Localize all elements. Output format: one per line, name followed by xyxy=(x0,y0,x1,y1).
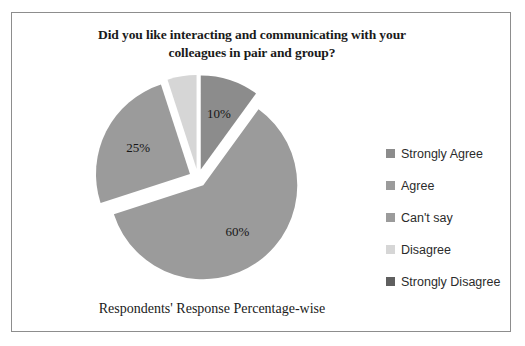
legend-item[interactable]: Can't say xyxy=(386,205,511,230)
axis-caption: Respondents' Response Percentage-wise xyxy=(32,301,392,317)
pie-slice-label: 60% xyxy=(226,224,250,239)
legend-item-label: Disagree xyxy=(401,243,451,257)
legend-item[interactable]: Disagree xyxy=(386,237,511,262)
chart-title: Did you like interacting and communicati… xyxy=(42,26,462,62)
legend-item[interactable]: Agree xyxy=(386,173,511,198)
pie-slice-group xyxy=(96,75,297,279)
pie-chart-area: 10%60%25%5%0% xyxy=(12,61,372,301)
pie-chart-svg: 10%60%25%5%0% xyxy=(12,61,372,301)
chart-title-line-1: Did you like interacting and communicati… xyxy=(42,26,462,44)
chart-legend: Strongly AgreeAgreeCan't sayDisagreeStro… xyxy=(386,141,511,301)
legend-item-label: Agree xyxy=(401,179,434,193)
legend-swatch-icon xyxy=(386,181,395,190)
legend-swatch-icon xyxy=(386,277,395,286)
pie-slice-label: 25% xyxy=(126,140,150,155)
legend-item[interactable]: Strongly Agree xyxy=(386,141,511,166)
chart-screenshot: Did you like interacting and communicati… xyxy=(0,0,525,346)
chart-title-line-2: colleagues in pair and group? xyxy=(42,44,462,62)
legend-item-label: Can't say xyxy=(401,211,453,225)
chart-frame: Did you like interacting and communicati… xyxy=(11,12,511,332)
legend-swatch-icon xyxy=(386,149,395,158)
legend-item[interactable]: Strongly Disagree xyxy=(386,269,511,294)
legend-swatch-icon xyxy=(386,245,395,254)
pie-slice-label: 10% xyxy=(207,106,231,121)
legend-item-label: Strongly Agree xyxy=(401,147,483,161)
legend-item-label: Strongly Disagree xyxy=(401,275,500,289)
legend-swatch-icon xyxy=(386,213,395,222)
